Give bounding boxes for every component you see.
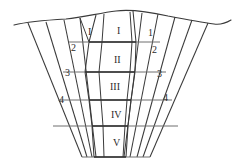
left-stratum-label-4: 4 [59, 95, 64, 105]
right-stratum-label-1: 1 [148, 28, 153, 38]
central-column-left-wall [99, 14, 104, 157]
upper-left-layer-label-I: I [88, 27, 91, 37]
right-stratum-line-5 [150, 23, 208, 157]
center-layer-label-II: II [114, 55, 121, 65]
right-stratum-line-4 [143, 20, 192, 157]
left-stratum-label-2: 2 [71, 43, 76, 53]
center-layer-label-V: V [113, 138, 120, 148]
right-stratum-line-3 [137, 17, 175, 157]
right-stratum-line-2 [130, 14, 158, 157]
center-layer-label-IV: IV [111, 110, 122, 120]
center-layer-label-III: III [110, 82, 120, 92]
trench-cross-section-figure: 2 3 4 1 2 3 4 I I II III IV V [0, 0, 245, 165]
trench-diagram-svg [0, 0, 245, 165]
left-stratum-label-3: 3 [65, 68, 70, 78]
center-layer-label-I: I [117, 26, 120, 36]
right-stratum-label-2: 2 [152, 45, 157, 55]
right-stratum-label-3: 3 [157, 69, 162, 79]
right-stratum-label-4: 4 [163, 93, 168, 103]
